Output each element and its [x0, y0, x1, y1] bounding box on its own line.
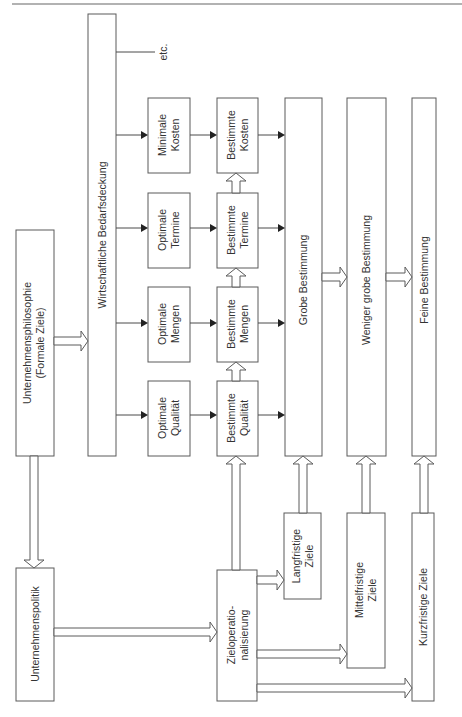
node-bestimmte-qualitaet-line2: Qualität [238, 400, 250, 436]
node-langfristig-line2: Ziele [303, 544, 315, 567]
node-mittelfristig-line2: Ziele [366, 578, 378, 601]
node-optimale-qualitaet-line2: Qualität [169, 400, 181, 436]
node-politik: Unternehmenspolitik [16, 568, 54, 701]
node-bestimmte-kosten-line1: Bestimmte [225, 110, 237, 160]
node-zielop-line1: Zieloperatio- [225, 605, 237, 664]
etc-label: etc. [157, 44, 169, 61]
node-bestimmte-termine-line1: Bestimmte [225, 205, 237, 255]
node-optimale-termine-line2: Termine [169, 211, 181, 249]
node-philosophie-line2: (Formale Ziele) [34, 307, 46, 378]
node-kurzfristig-label: Kurzfristige Ziele [417, 568, 429, 646]
node-bestimmte-kosten: Bestimmte Kosten [217, 98, 258, 173]
goal-hierarchy-diagram: Unternehmensphilosophie (Formale Ziele) … [0, 0, 462, 717]
node-bedarfsdeckung: Wirtschaftliche Bedarfsdeckung [88, 14, 116, 456]
node-optimale-mengen-line2: Mengen [169, 305, 181, 343]
node-bestimmte-qualitaet-line1: Bestimmte [225, 393, 237, 443]
node-kurzfristig: Kurzfristige Ziele [412, 513, 434, 701]
node-weniger-grobe-label: Weniger grobe Bestimmung [360, 215, 372, 345]
node-optimale-kosten: Minimale Kosten [148, 98, 190, 173]
node-optimale-mengen-line1: Optimale [156, 303, 168, 345]
node-feine: Feine Bestimmung [412, 98, 436, 456]
node-bestimmte-termine: Bestimmte Termine [217, 193, 258, 268]
node-politik-label: Unternehmenspolitik [29, 585, 41, 681]
node-optimale-termine: Optimale Termine [148, 193, 190, 268]
node-philosophie-line1: Unternehmensphilosophie [21, 282, 33, 404]
node-bestimmte-mengen-line2: Mengen [238, 305, 250, 343]
node-bestimmte-kosten-line2: Kosten [238, 119, 250, 152]
node-bestimmte-mengen: Bestimmte Mengen [217, 287, 258, 362]
node-zielop: Zieloperatio- nalisierung [217, 570, 257, 701]
node-langfristig: Langfristige Ziele [284, 513, 321, 599]
node-optimale-kosten-line1: Minimale [156, 114, 168, 156]
node-bestimmte-mengen-line1: Bestimmte [225, 299, 237, 349]
node-philosophie: Unternehmensphilosophie (Formale Ziele) [16, 230, 54, 456]
node-weniger-grobe: Weniger grobe Bestimmung [347, 98, 386, 456]
node-optimale-termine-line1: Optimale [156, 209, 168, 251]
node-feine-label: Feine Bestimmung [418, 236, 430, 324]
node-mittelfristig: Mittelfristige Ziele [347, 513, 385, 668]
node-langfristig-line1: Langfristige [290, 529, 302, 583]
node-optimale-kosten-line2: Kosten [169, 119, 181, 152]
node-bestimmte-termine-line2: Termine [238, 211, 250, 249]
node-bestimmte-qualitaet: Bestimmte Qualität [217, 381, 258, 456]
node-optimale-qualitaet-line1: Optimale [156, 397, 168, 439]
node-bedarfsdeckung-label: Wirtschaftliche Bedarfsdeckung [96, 161, 108, 308]
node-mittelfristig-line1: Mittelfristige [353, 562, 365, 618]
node-grobe: Grobe Bestimmung [285, 98, 322, 456]
solid-arrows [116, 131, 285, 419]
node-zielop-line2: nalisierung [238, 609, 250, 660]
node-optimale-qualitaet: Optimale Qualität [148, 381, 190, 456]
node-grobe-label: Grobe Bestimmung [297, 235, 309, 326]
node-optimale-mengen: Optimale Mengen [148, 287, 190, 362]
